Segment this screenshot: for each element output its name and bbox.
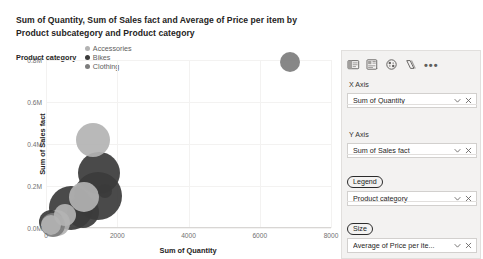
chart-title: Sum of Quantity, Sum of Sales fact and A… (16, 14, 328, 39)
x-tick-label: 6000 (252, 232, 267, 239)
y-axis-title: Sum of Sales fact (38, 113, 47, 175)
field-chip[interactable]: Sum of Sales fact (347, 143, 477, 158)
field-well-size[interactable]: SizeAverage of Price per ite... (347, 217, 477, 253)
well-label: X Axis (347, 80, 371, 90)
field-chip[interactable]: Product category (347, 191, 477, 206)
x-axis-title: Sum of Quantity (159, 246, 216, 255)
format-icon[interactable] (366, 58, 379, 71)
bubble-accessories[interactable] (76, 123, 110, 157)
gridline-horizontal (46, 102, 331, 103)
well-label: Size (347, 223, 373, 235)
drill-icon[interactable] (404, 58, 417, 71)
y-tick-label: 0.2M (27, 183, 42, 190)
well-divider (347, 201, 477, 202)
analytics-icon[interactable] (385, 58, 398, 71)
legend-item-accessories[interactable]: Accessories (85, 44, 131, 53)
legend-item-label: Accessories (93, 44, 132, 53)
bubble-clothing[interactable] (280, 52, 300, 72)
well-label: Legend (347, 176, 383, 188)
plot-area: 0.0M0.2M0.4M0.6M0.8M 02000400060008000 S… (46, 60, 331, 228)
well-label: Y Axis (347, 130, 371, 140)
close-icon[interactable] (464, 241, 473, 250)
y-tick-label: 0.6M (27, 99, 42, 106)
field-chip[interactable]: Average of Price per ite... (347, 238, 477, 253)
field-well-y-axis[interactable]: Y AxisSum of Sales fact (347, 123, 477, 158)
bubble-bikes[interactable] (98, 184, 112, 198)
field-chip-label: Average of Price per ite... (353, 241, 451, 250)
x-tick-label: 2000 (110, 232, 125, 239)
bubble-accessories[interactable] (69, 182, 99, 212)
screenshot-root: Sum of Quantity, Sum of Sales fact and A… (0, 0, 483, 259)
y-tick-label: 0.0M (27, 225, 42, 232)
gridline-horizontal (46, 228, 331, 229)
more-options-icon[interactable]: ••• (424, 61, 439, 69)
chevron-down-icon[interactable] (453, 241, 462, 250)
well-divider (347, 104, 477, 105)
y-tick-label: 0.8M (27, 57, 42, 64)
field-well-x-axis[interactable]: X AxisSum of Quantity (347, 73, 477, 108)
well-divider (347, 154, 477, 155)
plot-area-wrapper: 0.0M0.2M0.4M0.6M0.8M 02000400060008000 S… (0, 56, 340, 259)
x-tick-label: 8000 (324, 232, 339, 239)
pane-toolbar[interactable]: ••• (347, 55, 477, 74)
x-axis-line (46, 227, 331, 228)
x-tick-label: 4000 (181, 232, 196, 239)
scatter-chart-visual[interactable]: Sum of Quantity, Sum of Sales fact and A… (0, 0, 340, 259)
fields-icon[interactable] (347, 58, 360, 71)
gridline-vertical (331, 60, 332, 228)
legend-swatch-icon (85, 46, 90, 51)
x-tick-label: 0 (44, 232, 48, 239)
visualization-pane[interactable]: ••• X AxisSum of QuantityY AxisSum of Sa… (341, 50, 481, 259)
field-chip[interactable]: Sum of Quantity (347, 93, 477, 108)
